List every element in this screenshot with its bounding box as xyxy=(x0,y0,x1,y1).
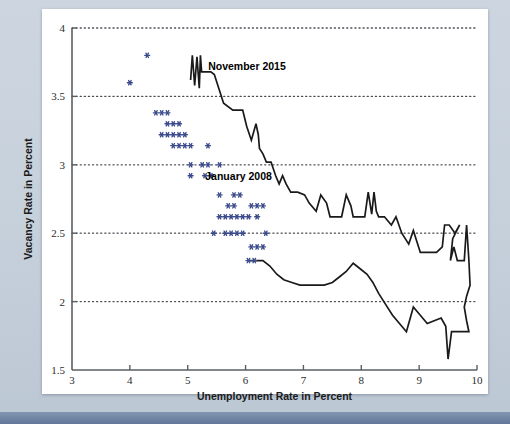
data-point xyxy=(200,163,205,167)
data-point xyxy=(249,204,254,208)
data-point xyxy=(159,111,164,115)
data-point xyxy=(260,204,265,208)
data-point xyxy=(229,231,234,235)
data-point xyxy=(255,245,260,249)
data-point xyxy=(223,215,228,219)
data-point xyxy=(145,53,150,57)
data-point xyxy=(205,143,210,147)
data-point xyxy=(171,122,176,126)
y-axis-title: Vacancy Rate in Percent xyxy=(22,138,34,260)
chart-annotation: November 2015 xyxy=(208,60,286,72)
chart-annotation: January 2008 xyxy=(205,170,272,182)
data-point xyxy=(217,215,222,219)
x-tick-label: 10 xyxy=(472,374,484,386)
data-point xyxy=(249,245,254,249)
data-point xyxy=(232,204,237,208)
data-point xyxy=(159,133,164,137)
data-point xyxy=(182,133,187,137)
data-point xyxy=(234,231,239,235)
data-point xyxy=(205,163,210,167)
y-tick-label: 1.5 xyxy=(51,364,65,376)
data-point xyxy=(229,215,234,219)
y-tick-label: 2.5 xyxy=(51,227,65,239)
data-point xyxy=(237,193,242,197)
x-tick-label: 5 xyxy=(185,374,191,386)
data-point xyxy=(127,81,132,85)
data-point xyxy=(260,245,265,249)
y-tick-label: 3 xyxy=(60,159,66,171)
chart-figure: 345678910 1.522.533.54 Unemployment Rate… xyxy=(0,0,510,424)
data-point xyxy=(255,204,260,208)
scatter-markers xyxy=(127,53,268,263)
page-background: 345678910 1.522.533.54 Unemployment Rate… xyxy=(0,0,510,424)
data-point xyxy=(234,215,239,219)
data-point xyxy=(246,215,251,219)
x-tick-label: 4 xyxy=(127,374,133,386)
data-point xyxy=(217,193,222,197)
data-point xyxy=(223,231,228,235)
data-point xyxy=(211,231,216,235)
y-tick-label: 3.5 xyxy=(51,90,65,102)
data-point xyxy=(240,215,245,219)
x-tick-label: 3 xyxy=(69,374,75,386)
data-point xyxy=(171,143,176,147)
x-axis-tick-labels: 345678910 xyxy=(69,374,483,386)
y-axis-tick-labels: 1.522.533.54 xyxy=(51,22,65,376)
bottom-accent-bar xyxy=(0,412,510,424)
data-point xyxy=(177,143,182,147)
data-point xyxy=(171,133,176,137)
data-point xyxy=(165,111,170,115)
data-point xyxy=(182,143,187,147)
data-point xyxy=(188,143,193,147)
x-tick-label: 6 xyxy=(243,374,249,386)
x-axis-title: Unemployment Rate in Percent xyxy=(197,390,353,402)
data-point xyxy=(252,258,257,262)
y-tick-label: 4 xyxy=(60,22,66,34)
data-point xyxy=(177,133,182,137)
x-tick-label: 8 xyxy=(359,374,365,386)
data-point xyxy=(226,204,231,208)
data-point xyxy=(240,231,245,235)
x-tick-label: 9 xyxy=(416,374,422,386)
data-point xyxy=(188,163,193,167)
data-point xyxy=(217,163,222,167)
data-point xyxy=(177,122,182,126)
data-point xyxy=(255,215,260,219)
y-tick-label: 2 xyxy=(60,296,66,308)
beveridge-curve-chart: 345678910 1.522.533.54 Unemployment Rate… xyxy=(0,0,510,424)
data-point xyxy=(153,111,158,115)
data-point xyxy=(165,122,170,126)
data-point xyxy=(188,174,193,178)
data-point xyxy=(165,133,170,137)
data-point xyxy=(232,193,237,197)
data-point xyxy=(246,258,251,262)
data-point xyxy=(263,231,268,235)
x-tick-label: 7 xyxy=(301,374,307,386)
